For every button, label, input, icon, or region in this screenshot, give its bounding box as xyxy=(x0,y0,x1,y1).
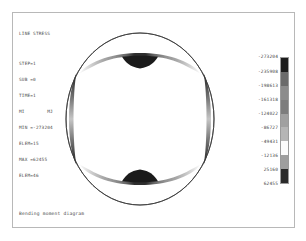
colorbar-band-4 xyxy=(281,114,288,128)
fea-plot-screenshot: LINE STRESS STEP=1 SUB =0 TIME=1 MI MJ M… xyxy=(0,0,306,241)
colorbar-labels: -273204-235908-198613-161318-124022-8672… xyxy=(248,52,278,189)
diagram-canvas xyxy=(60,26,220,212)
colorbar-band-2 xyxy=(281,86,288,100)
colorbar-band-1 xyxy=(281,72,288,86)
colorbar-label-9: 62455 xyxy=(264,181,278,186)
colorbar-label-1: -235908 xyxy=(258,69,278,74)
colorbar-label-3: -161318 xyxy=(258,97,278,102)
colorbar-label-7: -12136 xyxy=(261,153,278,158)
colorbar-label-8: 25160 xyxy=(264,167,278,172)
colorbar-label-4: -124022 xyxy=(258,111,278,116)
colorbar-band-3 xyxy=(281,100,288,114)
colorbar xyxy=(280,57,289,184)
colorbar-label-2: -198613 xyxy=(258,83,278,88)
colorbar-band-0 xyxy=(281,58,288,72)
colorbar-band-6 xyxy=(281,141,288,155)
colorbar-band-7 xyxy=(281,155,288,169)
colorbar-label-0: -273204 xyxy=(258,54,278,59)
colorbar-band-8 xyxy=(281,169,288,183)
colorbar-label-5: -86727 xyxy=(261,125,278,130)
colorbar-label-6: -49431 xyxy=(261,139,278,144)
plot-caption: Bending moment diagram xyxy=(19,211,84,216)
bending-moment-diagram xyxy=(60,26,220,212)
colorbar-band-5 xyxy=(281,127,288,141)
